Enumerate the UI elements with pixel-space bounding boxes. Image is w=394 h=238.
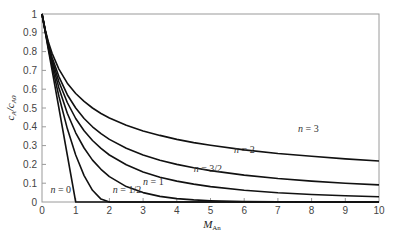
y-tick-label: 0 (31, 197, 37, 208)
curve-label: n = 3/2 (194, 163, 222, 174)
x-tick-label: 5 (208, 205, 214, 216)
x-tick-label: 6 (241, 205, 247, 216)
y-tick-label: 0.6 (23, 84, 37, 95)
curve-label: n = 1/2 (113, 184, 141, 195)
x-tick-label: 1 (73, 205, 79, 216)
x-tick-label: 9 (343, 205, 349, 216)
x-tick-label: 4 (174, 205, 180, 216)
y-tick-label: 0.7 (23, 65, 37, 76)
y-tick-label: 0.9 (23, 27, 37, 38)
y-tick-label: 0.4 (23, 121, 37, 132)
curve-n-3 (42, 14, 379, 161)
curve-label: n = 2 (234, 144, 255, 155)
x-tick-label: 2 (107, 205, 113, 216)
x-axis-title: MAn (202, 218, 221, 232)
x-tick-label: 10 (373, 205, 385, 216)
y-tick-label: 0.5 (23, 103, 37, 114)
y-axis-ticks: 00.10.20.30.40.50.60.70.80.91 (23, 9, 46, 208)
y-tick-label: 0.1 (23, 178, 37, 189)
x-tick-label: 3 (140, 205, 146, 216)
chart: 012345678910 00.10.20.30.40.50.60.70.80.… (0, 0, 394, 238)
curve-label: n = 1 (143, 176, 164, 187)
curve-label: n = 0 (50, 184, 71, 195)
curve-labels: n = 0n = 1/2n = 1n = 3/2n = 2n = 3 (50, 123, 318, 194)
x-tick-label: 8 (309, 205, 315, 216)
y-tick-label: 1 (31, 9, 37, 20)
y-tick-label: 0.2 (23, 159, 37, 170)
y-tick-label: 0.8 (23, 46, 37, 57)
y-tick-label: 0.3 (23, 140, 37, 151)
curve-label: n = 3 (298, 123, 319, 134)
x-tick-label: 0 (39, 205, 45, 216)
x-tick-label: 7 (275, 205, 281, 216)
y-axis-title: cA/cA0 (4, 95, 18, 120)
